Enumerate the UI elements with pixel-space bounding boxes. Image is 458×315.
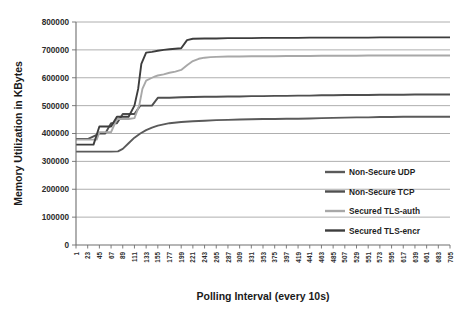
x-tick-label: 397 [283, 252, 290, 263]
series-line [76, 37, 450, 144]
x-tick-label: 683 [435, 252, 442, 263]
x-tick-label: 507 [341, 252, 348, 263]
x-tick-label: 595 [388, 252, 395, 263]
x-tick-label: 617 [400, 252, 407, 263]
x-tick-label: 375 [271, 252, 278, 263]
x-tick-label: 639 [412, 252, 419, 263]
y-axis-title: Memory Utilization in KBytes [12, 61, 24, 206]
legend-label: Secured TLS-encr [349, 226, 421, 236]
x-tick-label: 287 [225, 252, 232, 263]
x-axis-tick-labels: 1234567891111331551771992212432652873093… [73, 252, 454, 263]
x-tick-label: 441 [306, 252, 313, 263]
x-tick-label: 463 [318, 252, 325, 263]
y-tick-label: 100000 [42, 213, 70, 222]
legend-label: Non-Secure UDP [349, 167, 416, 177]
x-tick-label: 45 [96, 252, 103, 260]
series-line [76, 55, 450, 139]
legend-label: Secured TLS-auth [349, 206, 420, 216]
x-tick-label: 199 [178, 252, 185, 263]
y-tick-label: 400000 [42, 129, 70, 138]
x-tick-label: 551 [365, 252, 372, 263]
x-tick-label: 89 [119, 252, 126, 260]
x-axis-title: Polling Interval (every 10s) [196, 290, 329, 302]
data-series [76, 37, 450, 151]
y-tick-label: 500000 [42, 102, 70, 111]
x-tick-label: 155 [154, 252, 161, 263]
x-tick-label: 331 [248, 252, 255, 263]
x-tick-label: 67 [108, 252, 115, 260]
legend-label: Non-Secure TCP [349, 187, 415, 197]
x-tick-label: 177 [166, 252, 173, 263]
series-line [76, 117, 450, 152]
y-tick-label: 200000 [42, 185, 70, 194]
y-tick-label: 0 [64, 241, 69, 250]
x-tick-label: 529 [353, 252, 360, 263]
x-tick-label: 23 [84, 252, 91, 260]
chart-legend: Non-Secure UDPNon-Secure TCPSecured TLS-… [325, 167, 421, 236]
x-tick-label: 111 [131, 252, 138, 262]
y-axis-ticks [72, 22, 76, 245]
y-axis-tick-labels: 8000007000006000005000004000003000002000… [42, 18, 70, 250]
x-tick-label: 309 [236, 252, 243, 263]
x-tick-label: 221 [189, 252, 196, 263]
y-tick-label: 700000 [42, 46, 70, 55]
x-tick-label: 661 [423, 252, 430, 263]
x-tick-label: 133 [143, 252, 150, 263]
x-tick-label: 485 [330, 252, 337, 263]
x-tick-label: 353 [260, 252, 267, 263]
x-tick-label: 419 [295, 252, 302, 263]
y-tick-label: 600000 [42, 74, 70, 83]
x-tick-label: 705 [447, 252, 454, 263]
chart-canvas: 8000007000006000005000004000003000002000… [0, 0, 458, 315]
memory-utilization-chart: 8000007000006000005000004000003000002000… [0, 0, 458, 315]
x-tick-label: 573 [376, 252, 383, 263]
x-tick-label: 243 [201, 252, 208, 263]
x-tick-label: 265 [213, 252, 220, 263]
y-tick-label: 300000 [42, 157, 70, 166]
y-tick-label: 800000 [42, 18, 70, 27]
x-tick-label: 1 [73, 252, 80, 256]
